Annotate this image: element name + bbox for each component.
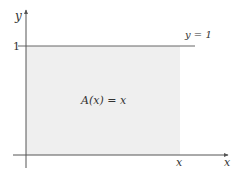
x-tick-label: x [176, 156, 183, 169]
y-axis-label: y [14, 9, 22, 23]
x-axis-label: x [224, 156, 231, 169]
constant-line-label: y = 1 [184, 29, 212, 40]
area-function-label: A(x) = x [80, 94, 127, 107]
y-tick-label-1: 1 [13, 40, 20, 53]
area-diagram: y 1 y = 1 A(x) = x x x [0, 0, 243, 179]
